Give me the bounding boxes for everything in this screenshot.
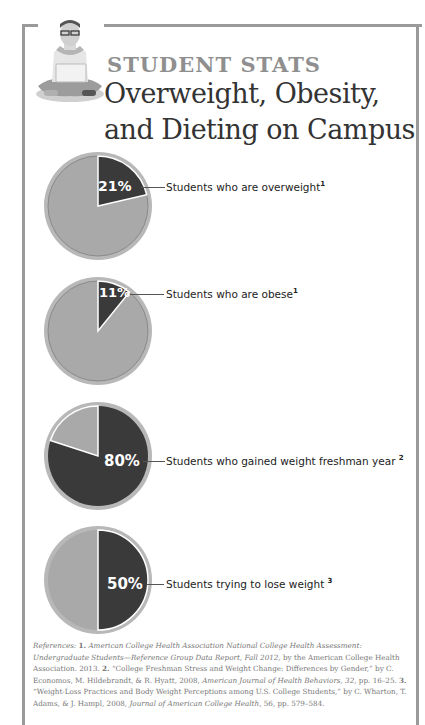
student-with-laptop-icon [34, 12, 106, 104]
references: References: 1. American College Health A… [33, 640, 411, 710]
section-eyebrow: STUDENT STATS [107, 52, 321, 77]
stat-label: Students who gained weight freshman year… [166, 454, 404, 467]
stat-label: Students who are obese1 [166, 287, 298, 300]
frame-top-right-rule [104, 24, 422, 27]
stat-label: Students who are overweight1 [166, 180, 325, 193]
page-title: Overweight, Obesity, and Dieting on Camp… [104, 76, 415, 148]
leader-line [143, 461, 165, 462]
pie-percent-label: 50% [107, 575, 143, 593]
title-line-1: Overweight, Obesity, [104, 78, 380, 109]
reference-marker: 3 [328, 577, 333, 585]
pie-chart-obese [42, 275, 154, 387]
stat-obese: 11% Students who are obese1 [42, 275, 422, 390]
pie-percent-label: 11% [99, 285, 130, 300]
stat-overweight: 21% Students who are overweight1 [42, 150, 422, 265]
stat-gained-weight: 80% Students who gained weight freshman … [42, 400, 422, 515]
stat-label: Students trying to lose weight 3 [166, 577, 332, 590]
pie-percent-label: 80% [104, 452, 140, 470]
title-line-2: and Dieting on Campus [104, 114, 415, 145]
leader-line [141, 187, 165, 188]
leader-line [146, 584, 164, 585]
stat-trying-to-lose: 50% Students trying to lose weight 3 [42, 524, 422, 639]
reference-marker: 1 [320, 180, 325, 188]
pie-percent-label: 21% [98, 178, 132, 194]
reference-marker: 1 [293, 287, 298, 295]
leader-line [130, 294, 164, 295]
pie-chart-overweight [42, 150, 154, 262]
reference-marker: 2 [399, 454, 404, 462]
